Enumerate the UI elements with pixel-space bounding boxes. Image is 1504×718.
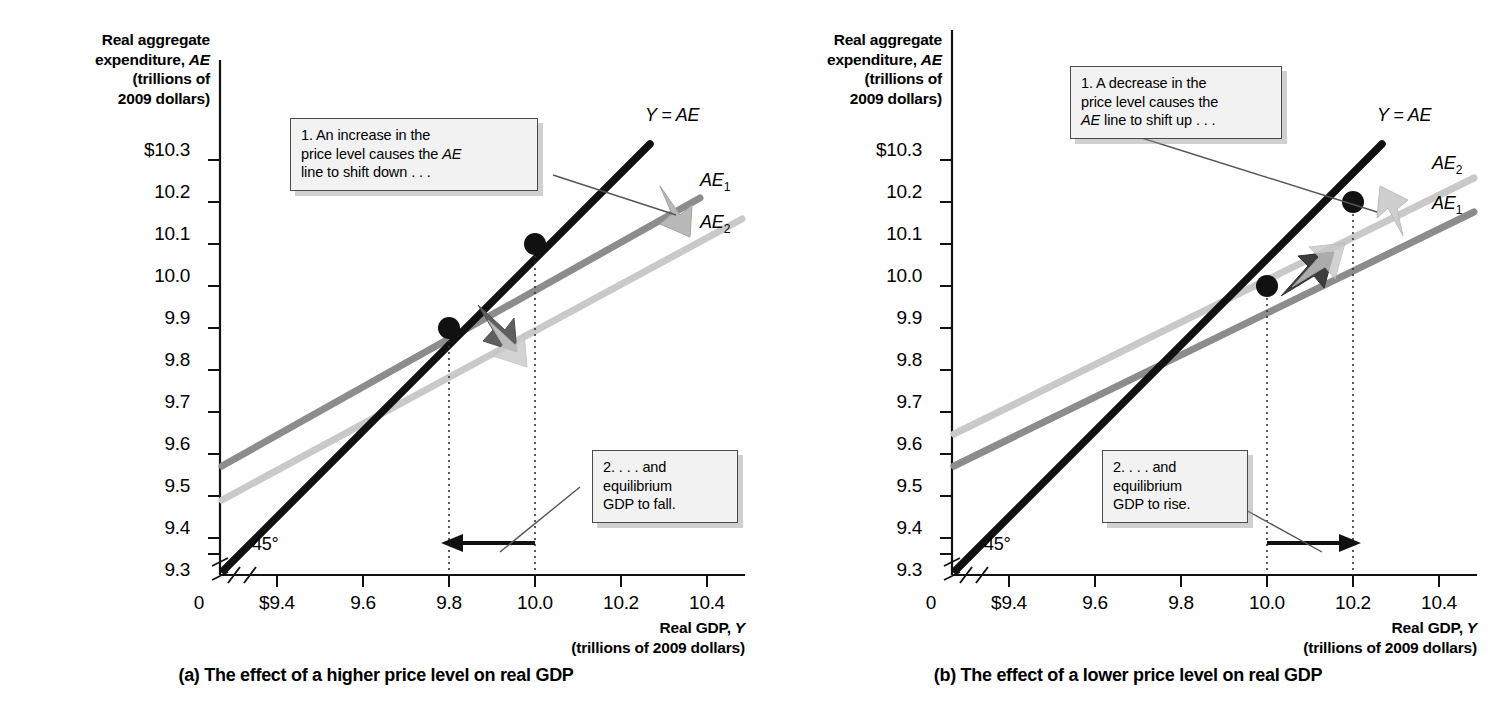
- note-2-line-2: equilibrium: [1113, 478, 1182, 494]
- note-1-line-2: price level causes the: [1081, 94, 1218, 110]
- note-1-line-1: 1. An increase in the: [301, 127, 430, 143]
- panel-b-caption: (b) The effect of a lower price level on…: [752, 665, 1504, 686]
- panel-a-plot: [0, 0, 752, 718]
- equilibrium-dot-initial: [524, 233, 546, 255]
- panel-a-x-axis-title: Real GDP, Y (trillions of 2009 dollars): [400, 618, 745, 657]
- callout-note-2: 2. . . . and equilibrium GDP to fall.: [592, 450, 738, 523]
- curve-label-ae1: AE1: [1432, 193, 1462, 217]
- panel-a: Real aggregate expenditure, AE (trillion…: [0, 0, 752, 718]
- direction-arrow-right: [1267, 534, 1361, 552]
- leader-line-note-1: [1110, 128, 1377, 212]
- note-2-line-1: 2. . . . and: [1113, 459, 1176, 475]
- curve-label-ae2: AE2: [1432, 153, 1462, 177]
- x-tick-marks: [277, 575, 707, 587]
- leader-line-note-2: [500, 487, 580, 552]
- curve-label-ae2: AE2: [700, 212, 730, 236]
- x-tick-marks: [1009, 575, 1439, 587]
- note-1-line-2: price level causes the: [301, 146, 442, 162]
- note-2-line-2: equilibrium: [603, 478, 672, 494]
- note-1-line-3: line to shift down . . .: [301, 164, 431, 180]
- y-tick-marks: [940, 160, 952, 554]
- panel-b-x-axis-title: Real GDP, Y (trillions of 2009 dollars): [1132, 618, 1477, 657]
- curve-label-identity: Y = AE: [1377, 105, 1431, 126]
- panel-a-caption: (a) The effect of a higher price level o…: [0, 665, 752, 686]
- equilibrium-dot-new: [438, 317, 460, 339]
- note-1-line-3: line to shift up . . .: [1100, 112, 1215, 128]
- y-tick-marks: [208, 160, 220, 554]
- equilibrium-dot-initial: [1256, 275, 1278, 297]
- curve-label-identity: Y = AE: [645, 105, 699, 126]
- note-1-ae: AE: [442, 146, 461, 162]
- note-1-ae: AE: [1081, 112, 1100, 128]
- curve-label-ae1: AE1: [700, 170, 730, 194]
- angle-label-45: 45°: [984, 534, 1011, 555]
- figure-two-panel-ae-price-level: Real aggregate expenditure, AE (trillion…: [0, 0, 1504, 718]
- direction-arrow-left: [441, 534, 535, 552]
- note-2-line-3: GDP to fall.: [603, 496, 676, 512]
- panel-b: Real aggregate expenditure, AE (trillion…: [752, 0, 1504, 718]
- callout-note-2: 2. . . . and equilibrium GDP to rise.: [1102, 450, 1248, 523]
- note-2-line-1: 2. . . . and: [603, 459, 666, 475]
- series-ae1-line: [954, 212, 1474, 466]
- angle-label-45: 45°: [252, 534, 279, 555]
- callout-note-1: 1. A decrease in the price level causes …: [1070, 66, 1282, 139]
- note-2-line-3: GDP to rise.: [1113, 496, 1191, 512]
- callout-note-1: 1. An increase in the price level causes…: [290, 118, 538, 191]
- series-identity-line: [224, 144, 650, 570]
- note-1-line-1: 1. A decrease in the: [1081, 75, 1206, 91]
